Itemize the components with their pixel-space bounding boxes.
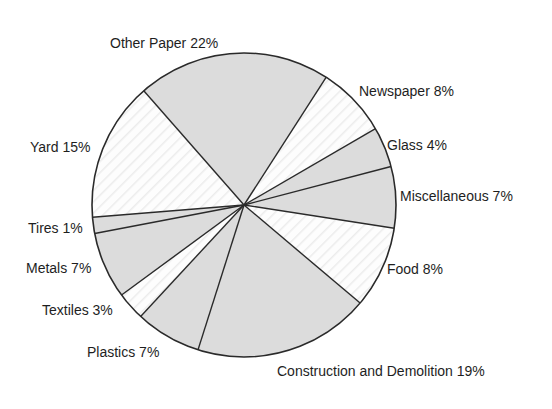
label-plastics: Plastics 7% bbox=[87, 344, 159, 360]
label-glass: Glass 4% bbox=[387, 137, 447, 153]
label-textiles: Textiles 3% bbox=[42, 302, 113, 318]
pie-chart: Other Paper 22%Newspaper 8%Glass 4%Misce… bbox=[0, 0, 552, 409]
label-other-paper: Other Paper 22% bbox=[110, 35, 218, 51]
label-construction-and-demolition: Construction and Demolition 19% bbox=[277, 363, 485, 379]
label-metals: Metals 7% bbox=[26, 260, 91, 276]
label-miscellaneous: Miscellaneous 7% bbox=[400, 188, 513, 204]
label-newspaper: Newspaper 8% bbox=[359, 83, 454, 99]
pie-slices bbox=[92, 53, 396, 357]
label-food: Food 8% bbox=[387, 261, 443, 277]
label-tires: Tires 1% bbox=[28, 220, 83, 236]
label-yard: Yard 15% bbox=[30, 139, 90, 155]
